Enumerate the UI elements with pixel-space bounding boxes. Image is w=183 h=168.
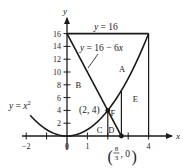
parabola-label: y = x2 [8,99,31,111]
line-label-leader [88,54,98,68]
y-tick-label: 2 [57,119,61,128]
region-label-e: E [133,94,138,104]
y-tick-label: 16 [53,30,61,39]
right-paren: ) [131,148,136,166]
region-label-d: D [108,125,114,135]
point-x-intercept [119,134,124,139]
y-axis-label: y [62,6,67,16]
fraction-numerator: 8 [115,145,119,153]
region-label-c: C [97,125,103,135]
x-axis-label: x [175,131,180,141]
y-tick-label: 6 [57,94,61,103]
x-intercept-tail: , 0 [120,149,130,159]
y-tick-label: 14 [53,42,61,51]
fraction-denominator: 3 [115,154,119,162]
region-label-a: A [119,64,126,74]
region-label-b: B [75,80,81,90]
intersection-point-label: (2, 4) [79,105,100,116]
region-label-f: F [111,108,116,118]
region-labels: ABCDEF [75,64,138,135]
line-label: y = 16 − 6x [79,43,124,53]
y-tick-label: 12 [53,55,61,64]
point-intersection [105,108,110,113]
y-tick-label: 10 [53,68,61,77]
left-paren: ( [107,148,112,166]
diagram: x y −2014246810121416 y = 16 y = 16 − 6x… [0,0,183,168]
horizontal-line-label: y = 16 [93,22,118,32]
x-tick-label: −2 [22,142,31,151]
y-tick-label: 8 [57,81,61,90]
y-tick-label: 4 [57,106,61,115]
x-tick-label: 1 [85,142,89,151]
x-tick-label: 0 [65,142,69,151]
x-intercept-label: ( 8 3 , 0 ) [107,145,136,166]
x-tick-label: 4 [147,142,151,151]
